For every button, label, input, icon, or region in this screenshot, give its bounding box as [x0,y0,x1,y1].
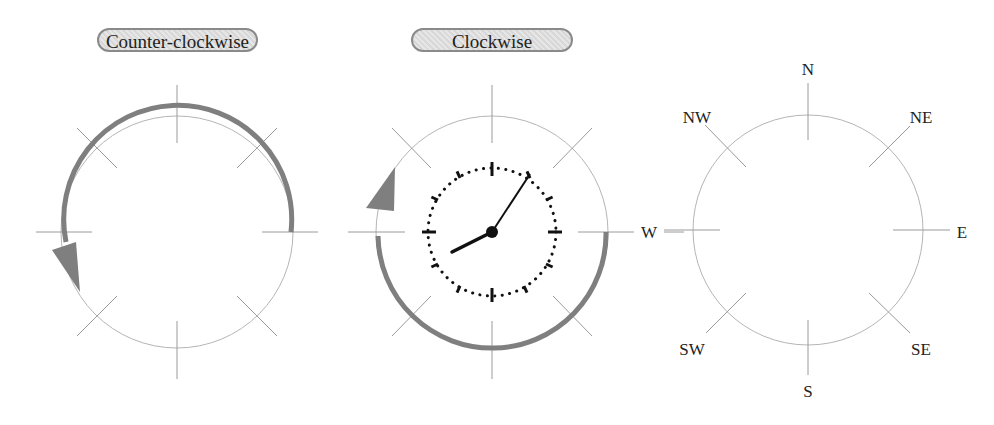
label-s: S [803,382,812,401]
clock-icon [422,162,562,302]
guide-circle [61,116,293,348]
clockwise-diagram [348,85,634,379]
label-se: SE [911,340,931,359]
label-e: E [957,223,967,242]
label-nw: NW [683,108,712,127]
diagram-canvas: W N NE E SE S SW NW [0,0,994,425]
label-ne: NE [910,108,933,127]
label-sw: SW [679,340,705,359]
ccw-arrow-arc [64,105,292,242]
clock-minute-hand [492,174,530,232]
compass-rose: N NE E SE S SW NW [664,60,967,401]
ccw-arrowhead-icon [52,242,80,292]
guide-circle [693,115,923,345]
label-n: N [802,60,814,79]
direction-ticks [36,85,318,379]
clock-center [486,226,498,238]
clock-hour-hand [452,232,492,252]
cw-arrowhead-icon [366,167,395,211]
counter-clockwise-diagram [36,85,318,379]
label-w: W [641,223,658,242]
